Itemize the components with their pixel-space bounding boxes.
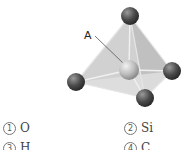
option-text-1: O (20, 121, 30, 135)
option-2[interactable]: 2 Si (124, 121, 153, 135)
option-3[interactable]: 3 H (3, 141, 30, 150)
atom-center-a (119, 60, 139, 80)
label-a: A (84, 29, 92, 42)
option-number-2: 2 (124, 122, 137, 135)
atom-right (163, 62, 181, 80)
atom-bottom (136, 89, 154, 107)
option-number-3: 3 (3, 142, 16, 151)
option-text-3: H (20, 141, 30, 150)
tetrahedron-figure: A (0, 0, 189, 115)
option-number-1: 1 (3, 122, 16, 135)
atom-left (67, 73, 85, 91)
option-4[interactable]: 4 C (124, 141, 150, 150)
option-1[interactable]: 1 O (3, 121, 30, 135)
tetrahedron-diagram: A (0, 0, 189, 115)
option-text-2: Si (141, 121, 153, 135)
atom-top (121, 7, 139, 25)
option-text-4: C (141, 141, 150, 150)
option-number-4: 4 (124, 142, 137, 151)
